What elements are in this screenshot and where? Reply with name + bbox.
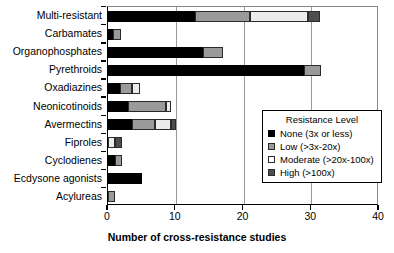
bar-segment-none: [108, 11, 195, 22]
legend-items: None (3x or less)Low (>3x-20x)Moderate (…: [268, 129, 376, 178]
bar-segment-low: [304, 65, 321, 76]
legend-item: Moderate (>20x-100x): [268, 155, 376, 165]
category-label: Acylureas: [0, 191, 102, 202]
legend: Resistance Level None (3x or less)Low (>…: [262, 110, 382, 183]
bar-segment-none: [108, 47, 203, 58]
legend-label: Low (>3x-20x): [280, 142, 340, 152]
bar-segment-low: [113, 29, 120, 40]
bar-segment-none: [108, 65, 304, 76]
bar-segment-moderate: [108, 137, 115, 148]
y-axis-tick: [101, 78, 106, 79]
cross-resistance-bar-chart: Multi-resistantCarbamatesOrganophosphate…: [0, 0, 394, 253]
category-label: Pyrethroids: [0, 64, 102, 75]
bar-segment-moderate: [132, 83, 140, 94]
gridline-10: [176, 7, 177, 204]
category-label: Avermectins: [0, 119, 102, 130]
legend-label: None (3x or less): [280, 129, 352, 139]
category-label: Cyclodienes: [0, 155, 102, 166]
legend-label: Moderate (>20x-100x): [280, 155, 374, 165]
x-axis-title: Number of cross-resistance studies: [0, 231, 394, 243]
category-axis-labels: Multi-resistantCarbamatesOrganophosphate…: [0, 0, 102, 205]
x-axis-tick-label: 10: [169, 211, 181, 222]
bar-segment-low: [195, 11, 251, 22]
category-label: Fiproles: [0, 137, 102, 148]
bar-segment-none: [108, 119, 132, 130]
x-axis-tick-label: 30: [304, 211, 316, 222]
bar-segment-high: [308, 11, 320, 22]
bar-segment-moderate: [166, 101, 171, 112]
y-axis-tick: [101, 133, 106, 134]
category-label: Organophosphates: [0, 46, 102, 57]
category-label: Multi-resistant: [0, 10, 102, 21]
gridline-20: [244, 7, 245, 204]
y-axis-tick: [101, 187, 106, 188]
y-axis-tick: [101, 115, 106, 116]
bar-segment-high: [115, 137, 122, 148]
y-axis-tick: [101, 169, 106, 170]
bar-segment-high: [171, 119, 176, 130]
bar-segment-moderate: [250, 11, 308, 22]
legend-item: High (>100x): [268, 168, 376, 178]
category-label: Neonicotinoids: [0, 101, 102, 112]
category-label: Oxadiazines: [0, 82, 102, 93]
legend-label: High (>100x): [280, 168, 335, 178]
x-axis-tick-label: 20: [237, 211, 249, 222]
category-label: Carbamates: [0, 28, 102, 39]
y-axis-tick: [101, 24, 106, 25]
x-axis-tick-label: 0: [104, 211, 110, 222]
legend-swatch-low: [268, 143, 275, 150]
y-axis-tick: [101, 42, 106, 43]
y-axis-tick: [101, 6, 106, 7]
legend-swatch-none: [268, 130, 275, 137]
bar-segment-low: [132, 119, 156, 130]
legend-item: Low (>3x-20x): [268, 142, 376, 152]
bar-segment-none: [108, 173, 142, 184]
legend-item: None (3x or less): [268, 129, 376, 139]
bar-segment-none: [108, 155, 115, 166]
y-axis-tick: [101, 96, 106, 97]
bar-segment-none: [108, 101, 128, 112]
x-axis-tick-label: 40: [372, 211, 384, 222]
legend-title: Resistance Level: [268, 115, 376, 125]
legend-swatch-high: [268, 169, 275, 176]
bar-segment-low: [120, 83, 132, 94]
bar-segment-low: [108, 191, 115, 202]
bar-segment-low: [203, 47, 223, 58]
bar-segment-low: [115, 155, 122, 166]
y-axis-tick: [101, 151, 106, 152]
bar-segment-low: [128, 101, 165, 112]
bar-segment-moderate: [155, 119, 171, 130]
y-axis-tick: [101, 60, 106, 61]
bar-segment-none: [108, 83, 120, 94]
category-label: Ecdysone agonists: [0, 173, 102, 184]
legend-swatch-moderate: [268, 156, 275, 163]
